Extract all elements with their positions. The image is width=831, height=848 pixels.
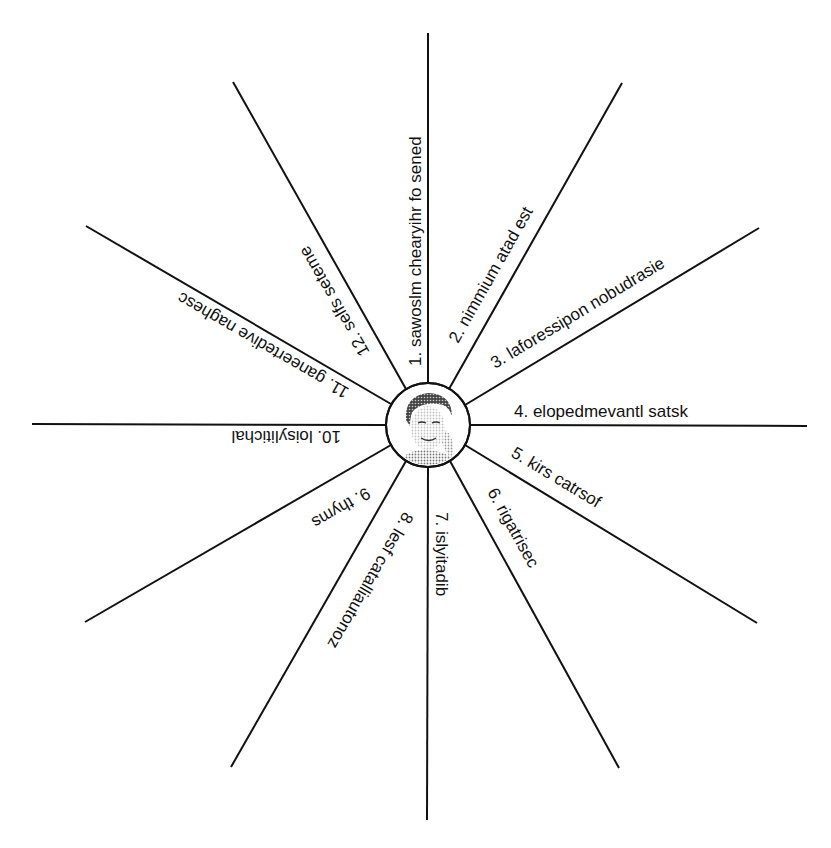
spoke-label-9: 9. thyms xyxy=(308,484,373,533)
spoke-4 xyxy=(470,425,807,426)
spoke-label-2: 2. nimmium atad est xyxy=(445,203,537,346)
spoke-10 xyxy=(32,424,386,425)
spoke-7 xyxy=(427,467,428,820)
spoke-label-4: 4. elopedmevantl satsk xyxy=(514,402,688,421)
spoke-label-1: 1. sawoslm chearyihr fo sened xyxy=(406,136,425,366)
spoke-label-3: 3. laforessipon nobudrasie xyxy=(487,253,668,372)
hub xyxy=(386,383,470,470)
spoke-label-6: 6. rigatrisec xyxy=(484,485,543,571)
spider-diagram: 1. sawoslm chearyihr fo sened 2. nimmium… xyxy=(0,0,831,848)
spoke-8 xyxy=(231,461,406,767)
spoke-label-7: 7. islyitadib xyxy=(432,512,451,596)
spoke-9 xyxy=(85,445,391,622)
spoke-label-10: 10. loisylitichal xyxy=(231,427,341,446)
